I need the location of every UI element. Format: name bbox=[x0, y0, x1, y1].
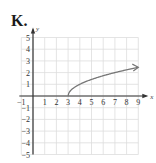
x-axis-arrow-icon bbox=[142, 94, 148, 98]
y-tick-label: 4 bbox=[26, 45, 30, 54]
y-tick-label: −5 bbox=[21, 151, 30, 160]
y-axis-arrow-icon bbox=[31, 28, 35, 34]
y-tick-label: 3 bbox=[26, 57, 30, 66]
x-axis-label: x bbox=[149, 93, 154, 101]
x-tick-label: 2 bbox=[54, 98, 58, 107]
y-axis-label: y bbox=[35, 25, 40, 33]
y-tick-label: 2 bbox=[26, 69, 30, 78]
y-tick-label: 5 bbox=[26, 34, 30, 43]
x-tick-label: 4 bbox=[78, 98, 82, 107]
y-tick-label: −3 bbox=[21, 127, 30, 136]
x-tick-label: 3 bbox=[66, 98, 70, 107]
x-tick-label: 7 bbox=[113, 98, 117, 107]
y-tick-label: −4 bbox=[21, 139, 30, 148]
y-tick-label: −1 bbox=[21, 104, 30, 113]
chart: xy−112345678954321−1−2−3−4−5 bbox=[0, 0, 156, 163]
x-tick-label: 6 bbox=[101, 98, 105, 107]
x-tick-label: 5 bbox=[90, 98, 94, 107]
y-tick-label: 1 bbox=[26, 80, 30, 89]
y-tick-label: −2 bbox=[21, 115, 30, 124]
x-tick-label: 9 bbox=[136, 98, 140, 107]
x-tick-label: 1 bbox=[43, 98, 47, 107]
x-tick-label: 8 bbox=[125, 98, 129, 107]
